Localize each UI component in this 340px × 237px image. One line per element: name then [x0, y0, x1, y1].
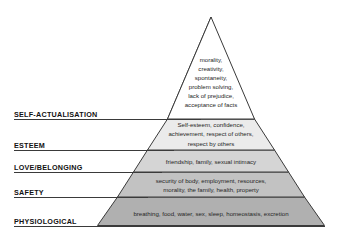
tier-content-self-actualisation: morality, creativity, spontaneity, probl… [150, 55, 272, 110]
divider-line-esteem [14, 150, 174, 151]
tier-content-esteem: Self-esteem, confidence, achievement, re… [140, 120, 282, 148]
tier-label-self-actualisation: SELF-ACTUALISATION [14, 111, 97, 118]
divider-line-safety [14, 197, 148, 198]
maslow-pyramid-diagram: SELF-ACTUALISATION ESTEEM LOVE/BELONGING… [0, 0, 340, 237]
tier-label-safety: SAFETY [14, 189, 44, 196]
tier-content-love-belonging: friendship, family, sexual intimacy [125, 157, 297, 166]
tier-label-love-belonging: LOVE/BELONGING [14, 164, 83, 171]
tier-label-esteem: ESTEEM [14, 142, 45, 149]
tier-content-physiological: breathing, food, water, sex, sleep, home… [100, 209, 322, 218]
divider-line-physiological [14, 226, 325, 227]
tier-label-physiological: PHYSIOLOGICAL [14, 218, 77, 225]
tier-content-safety: security of body, employment, resources,… [115, 176, 307, 195]
divider-line-love-belonging [14, 172, 162, 173]
